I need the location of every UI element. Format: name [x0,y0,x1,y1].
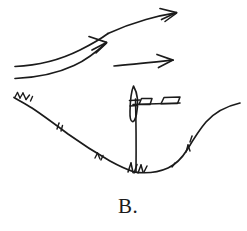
upper-curved-wind-arrow [15,9,177,67]
hand-drawn-diagram: B. [0,0,247,231]
valley-profile [14,93,240,174]
wind-arrows-group [15,9,177,79]
rotor-hub-crossbar [130,100,141,101]
grass-ticks-right [172,136,192,167]
tower-mast [136,99,137,172]
lower-straight-wind-arrow [114,55,173,68]
wind-turbine [130,86,181,172]
figure-label: B. [118,194,138,218]
figure-container: B. [0,0,247,231]
